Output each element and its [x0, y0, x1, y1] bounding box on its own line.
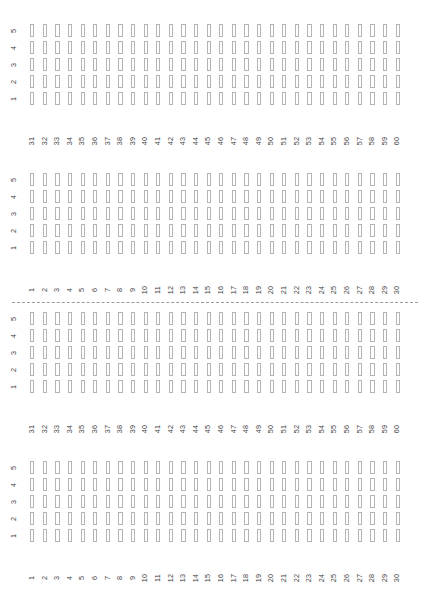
grid-cell[interactable] [278, 378, 291, 395]
grid-cell[interactable] [303, 22, 316, 39]
grid-cell[interactable] [328, 56, 341, 73]
grid-cell[interactable] [26, 527, 39, 544]
grid-cell[interactable] [316, 527, 329, 544]
grid-cell[interactable] [165, 476, 178, 493]
grid-cell[interactable] [190, 527, 203, 544]
grid-cell[interactable] [165, 22, 178, 39]
grid-cell[interactable] [391, 527, 404, 544]
grid-cell[interactable] [177, 310, 190, 327]
grid-cell[interactable] [354, 344, 367, 361]
grid-cell[interactable] [265, 22, 278, 39]
grid-cell[interactable] [354, 476, 367, 493]
grid-cell[interactable] [341, 361, 354, 378]
grid-cell[interactable] [102, 327, 115, 344]
grid-cell[interactable] [165, 310, 178, 327]
grid-cell[interactable] [379, 205, 392, 222]
grid-cell[interactable] [114, 188, 127, 205]
grid-cell[interactable] [240, 22, 253, 39]
grid-cell[interactable] [328, 222, 341, 239]
grid-cell[interactable] [89, 527, 102, 544]
grid-cell[interactable] [228, 378, 241, 395]
grid-cell[interactable] [39, 188, 52, 205]
grid-cell[interactable] [303, 188, 316, 205]
grid-cell[interactable] [202, 90, 215, 107]
grid-cell[interactable] [127, 188, 140, 205]
grid-cell[interactable] [379, 22, 392, 39]
grid-cell[interactable] [39, 205, 52, 222]
grid-cell[interactable] [114, 205, 127, 222]
grid-cell[interactable] [152, 327, 165, 344]
grid-cell[interactable] [215, 493, 228, 510]
grid-cell[interactable] [76, 239, 89, 256]
grid-cell[interactable] [177, 222, 190, 239]
grid-cell[interactable] [51, 310, 64, 327]
grid-cell[interactable] [228, 361, 241, 378]
grid-cell[interactable] [39, 22, 52, 39]
grid-cell[interactable] [127, 476, 140, 493]
grid-cell[interactable] [165, 459, 178, 476]
grid-cell[interactable] [228, 56, 241, 73]
grid-cell[interactable] [291, 476, 304, 493]
grid-cell[interactable] [316, 344, 329, 361]
grid-cell[interactable] [316, 39, 329, 56]
grid-cell[interactable] [215, 73, 228, 90]
grid-cell[interactable] [114, 39, 127, 56]
grid-cell[interactable] [139, 205, 152, 222]
grid-cell[interactable] [316, 476, 329, 493]
grid-cell[interactable] [328, 459, 341, 476]
grid-cell[interactable] [265, 310, 278, 327]
grid-cell[interactable] [278, 39, 291, 56]
grid-cell[interactable] [341, 310, 354, 327]
grid-cell[interactable] [366, 378, 379, 395]
grid-cell[interactable] [139, 527, 152, 544]
grid-cell[interactable] [165, 188, 178, 205]
grid-cell[interactable] [278, 222, 291, 239]
grid-cell[interactable] [152, 39, 165, 56]
grid-cell[interactable] [76, 361, 89, 378]
grid-cell[interactable] [64, 39, 77, 56]
grid-cell[interactable] [316, 459, 329, 476]
grid-cell[interactable] [152, 527, 165, 544]
grid-cell[interactable] [102, 39, 115, 56]
grid-cell[interactable] [391, 56, 404, 73]
grid-cell[interactable] [253, 239, 266, 256]
grid-cell[interactable] [127, 22, 140, 39]
grid-cell[interactable] [114, 527, 127, 544]
grid-cell[interactable] [177, 510, 190, 527]
grid-cell[interactable] [328, 22, 341, 39]
grid-cell[interactable] [165, 90, 178, 107]
grid-cell[interactable] [64, 493, 77, 510]
grid-cell[interactable] [328, 378, 341, 395]
grid-cell[interactable] [303, 171, 316, 188]
grid-cell[interactable] [366, 188, 379, 205]
grid-cell[interactable] [303, 205, 316, 222]
grid-cell[interactable] [215, 239, 228, 256]
grid-cell[interactable] [102, 378, 115, 395]
grid-cell[interactable] [127, 39, 140, 56]
grid-cell[interactable] [202, 493, 215, 510]
grid-cell[interactable] [76, 90, 89, 107]
grid-cell[interactable] [114, 239, 127, 256]
grid-cell[interactable] [26, 239, 39, 256]
grid-cell[interactable] [39, 171, 52, 188]
grid-cell[interactable] [51, 476, 64, 493]
grid-cell[interactable] [39, 327, 52, 344]
grid-cell[interactable] [190, 188, 203, 205]
grid-cell[interactable] [165, 378, 178, 395]
grid-cell[interactable] [165, 493, 178, 510]
grid-cell[interactable] [228, 239, 241, 256]
grid-cell[interactable] [51, 171, 64, 188]
grid-cell[interactable] [265, 188, 278, 205]
grid-cell[interactable] [76, 527, 89, 544]
grid-cell[interactable] [316, 239, 329, 256]
grid-cell[interactable] [39, 73, 52, 90]
grid-cell[interactable] [139, 493, 152, 510]
grid-cell[interactable] [127, 344, 140, 361]
grid-cell[interactable] [354, 527, 367, 544]
grid-cell[interactable] [127, 205, 140, 222]
grid-cell[interactable] [177, 205, 190, 222]
grid-cell[interactable] [240, 344, 253, 361]
grid-cell[interactable] [89, 205, 102, 222]
grid-cell[interactable] [177, 459, 190, 476]
grid-cell[interactable] [127, 73, 140, 90]
